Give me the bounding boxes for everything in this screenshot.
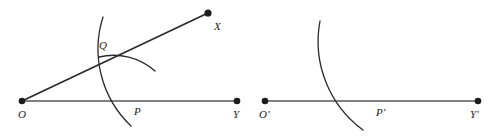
point-dot-Oprime	[262, 98, 269, 105]
point-dot-Yprime	[475, 98, 482, 105]
point-label-Q: Q	[99, 39, 107, 51]
ray-O-X	[22, 13, 208, 101]
point-label-P: P	[133, 105, 141, 117]
point-label-Pprime: P'	[375, 106, 386, 118]
point-label-Y: Y	[233, 108, 241, 120]
point-label-Oprime: O'	[259, 108, 270, 120]
arc-through-Pprime	[318, 21, 363, 130]
copied-angle-panel: O' P' Y'	[259, 21, 481, 130]
geometry-figure: O P Y X Q O' P' Y'	[0, 0, 502, 136]
point-label-O: O	[18, 108, 26, 120]
point-label-Yprime: Y'	[470, 108, 479, 120]
point-dot-X	[204, 9, 211, 16]
point-dot-O	[19, 98, 26, 105]
figure-canvas: O P Y X Q O' P' Y'	[0, 0, 502, 136]
point-dot-Y	[234, 98, 241, 105]
short-arc-crossing-Q	[99, 55, 155, 71]
original-angle-panel: O P Y X Q	[18, 9, 241, 126]
point-label-X: X	[213, 20, 222, 32]
arc-through-P-and-Q	[98, 17, 131, 126]
